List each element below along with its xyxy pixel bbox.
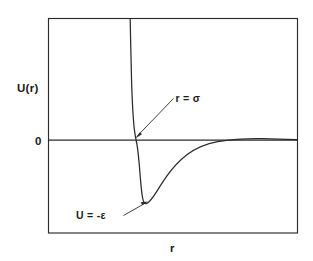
y-axis-label: U(r) (17, 82, 39, 94)
lennard-jones-potential-figure: r = σ U = -ε U(r) 0 r (0, 0, 313, 261)
plot-canvas: r = σ U = -ε U(r) 0 r (0, 0, 313, 261)
figure-background (0, 0, 313, 261)
sigma-annotation-label: r = σ (176, 92, 201, 104)
epsilon-annotation-label: U = -ε (76, 209, 106, 221)
x-axis-label: r (170, 242, 175, 254)
y-zero-tick-label: 0 (35, 135, 42, 147)
